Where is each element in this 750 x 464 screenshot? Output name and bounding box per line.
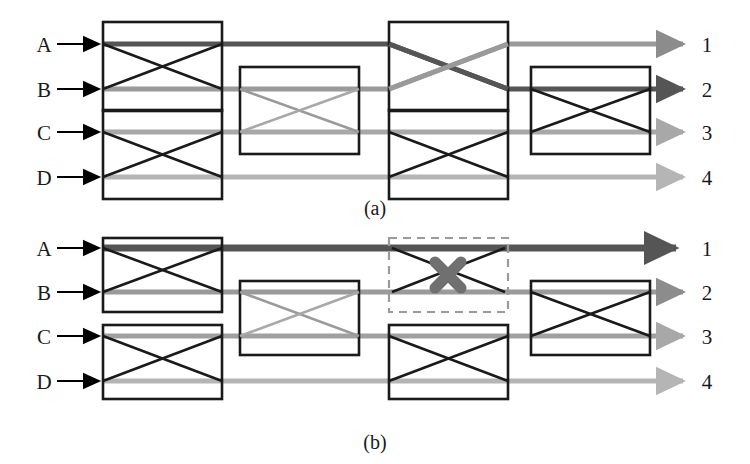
panel-b-caption: (b) [363, 431, 386, 454]
input-label-d: D [36, 370, 51, 394]
input-label-d: D [36, 166, 51, 190]
input-label-b: B [37, 78, 51, 102]
output-label-3: 3 [702, 325, 713, 349]
panel-a-caption: (a) [364, 197, 386, 220]
output-label-4: 4 [702, 166, 713, 190]
input-label-c: C [37, 325, 51, 349]
input-label-a: A [36, 237, 52, 261]
output-label-3: 3 [702, 121, 713, 145]
input-label-c: C [37, 121, 51, 145]
input-label-b: B [37, 281, 51, 305]
output-label-1: 1 [702, 237, 713, 261]
figure-background [0, 0, 750, 464]
figure-canvas: A B C D 1 2 3 4 (a) [0, 0, 750, 464]
output-label-4: 4 [702, 370, 713, 394]
output-label-1: 1 [702, 33, 713, 57]
switch-network-figure: A B C D 1 2 3 4 (a) [0, 0, 750, 464]
input-label-a: A [36, 33, 52, 57]
output-label-2: 2 [702, 281, 713, 305]
output-label-2: 2 [702, 78, 713, 102]
